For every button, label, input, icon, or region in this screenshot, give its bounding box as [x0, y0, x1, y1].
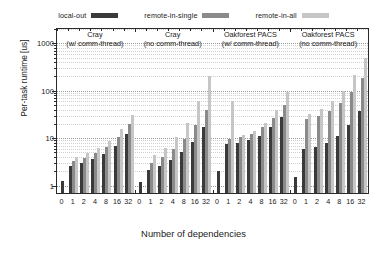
chart-figure: local-outremote-in-singleremote-in-all P…	[0, 0, 387, 255]
legend-swatch-icon	[91, 13, 118, 18]
legend-label: remote-in-single	[144, 11, 197, 20]
group-separator-tick	[290, 190, 291, 193]
x-tick-label: 1	[71, 197, 75, 206]
group-title-line2: (no comm-thread)	[289, 39, 367, 48]
group-title-line2: (w/ comm-thread)	[212, 39, 290, 48]
x-tick-label: 0	[137, 197, 141, 206]
group-titles: Cray(w/ comm-thread)Cray(no comm-thread)…	[56, 30, 369, 56]
group-title-cray-with-comm-thread: Cray(w/ comm-thread)	[56, 30, 134, 49]
group-title-line1: Oakforest PACS	[289, 30, 367, 39]
group-title-line1: Cray	[56, 30, 134, 39]
bar	[364, 58, 367, 193]
bar	[294, 177, 297, 193]
bar	[153, 155, 156, 193]
x-tick-label: 4	[93, 197, 97, 206]
bar	[331, 101, 334, 193]
bar	[108, 141, 111, 193]
x-tick-label: 1	[148, 197, 152, 206]
bar	[253, 131, 256, 193]
x-axis: 012481632012481632012481632012481632	[56, 195, 369, 213]
x-tick-label: 8	[337, 197, 341, 206]
x-tick-label: 2	[82, 197, 86, 206]
x-tick-label: 2	[315, 197, 319, 206]
legend-item-local-out: local-out	[58, 11, 118, 20]
x-tick-label: 32	[202, 197, 210, 206]
x-axis-title: Number of dependencies	[0, 228, 387, 239]
x-tick-label: 0	[215, 197, 219, 206]
y-axis: Per-task runtime [us] 1101001000	[0, 28, 56, 194]
bar	[131, 115, 134, 193]
x-tick-label: 2	[237, 197, 241, 206]
bar	[242, 135, 245, 193]
bar	[86, 153, 89, 193]
x-tick-label: 4	[248, 197, 252, 206]
bar	[164, 148, 167, 193]
bar	[353, 75, 356, 193]
x-tick-label: 16	[346, 197, 354, 206]
bar	[231, 101, 234, 193]
group-title-line2: (w/ comm-thread)	[56, 39, 134, 48]
group-title-line1: Oakforest PACS	[212, 30, 290, 39]
bar	[208, 76, 211, 193]
legend-swatch-icon	[302, 13, 329, 18]
legend-label: local-out	[58, 11, 86, 20]
group-separator-tick	[135, 190, 136, 193]
bar	[264, 123, 267, 193]
group-title-line1: Cray	[134, 30, 212, 39]
x-tick-label: 16	[269, 197, 277, 206]
bar	[175, 137, 178, 193]
group-separator-tick	[213, 190, 214, 193]
x-tick-label: 32	[357, 197, 365, 206]
group-title-line2: (no comm-thread)	[134, 39, 212, 48]
bar	[320, 109, 323, 193]
bar	[75, 157, 78, 193]
bar	[186, 123, 189, 193]
x-tick-label: 2	[160, 197, 164, 206]
legend-label: remote-in-all	[255, 11, 296, 20]
legend-item-remote-in-single: remote-in-single	[144, 11, 229, 20]
bar	[286, 92, 289, 193]
x-tick-label: 8	[182, 197, 186, 206]
x-tick-label: 32	[124, 197, 132, 206]
y-axis-title: Per-task runtime [us]	[19, 8, 29, 148]
x-tick-label: 16	[191, 197, 199, 206]
x-tick-label: 0	[293, 197, 297, 206]
bar	[61, 181, 64, 193]
group-title-cray-no-comm-thread: Cray(no comm-thread)	[134, 30, 212, 49]
x-tick-label: 0	[60, 197, 64, 206]
x-tick-label: 1	[226, 197, 230, 206]
group-title-oakforest-pacs-with-comm-thread: Oakforest PACS(w/ comm-thread)	[212, 30, 290, 49]
bar	[308, 114, 311, 193]
chart-legend: local-outremote-in-singleremote-in-all	[0, 9, 387, 22]
x-tick-label: 1	[304, 197, 308, 206]
x-tick-label: 16	[113, 197, 121, 206]
group-title-oakforest-pacs-no-comm-thread: Oakforest PACS(no comm-thread)	[289, 30, 367, 49]
bar	[217, 171, 220, 193]
x-tick-label: 4	[171, 197, 175, 206]
x-tick-label: 4	[326, 197, 330, 206]
bar	[275, 110, 278, 193]
bar	[197, 101, 200, 193]
x-tick-label: 8	[259, 197, 263, 206]
bar	[120, 129, 123, 193]
legend-item-remote-in-all: remote-in-all	[255, 11, 328, 20]
bar	[342, 91, 345, 193]
x-tick-label: 8	[104, 197, 108, 206]
bar	[139, 182, 142, 193]
legend-swatch-icon	[202, 13, 229, 18]
x-tick-label: 32	[280, 197, 288, 206]
bar	[97, 148, 100, 193]
